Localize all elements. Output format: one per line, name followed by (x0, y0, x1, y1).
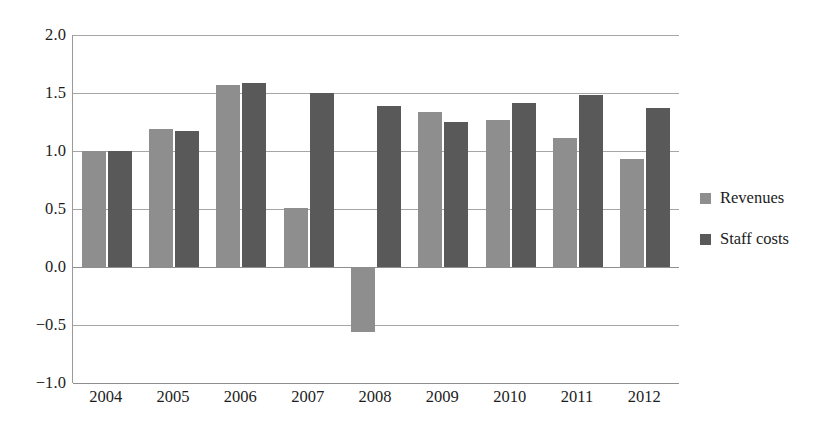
y-axis-tick-label: 0.5 (4, 201, 66, 218)
x-axis-tick-label: 2004 (72, 389, 140, 406)
x-axis-tick-label: 2012 (610, 389, 678, 406)
bars-layer (73, 35, 679, 383)
chart-legend: Revenues Staff costs (700, 178, 830, 260)
bar-revenues-2005 (149, 129, 173, 267)
legend-item-staff-costs: Staff costs (700, 219, 830, 260)
x-axis-tick-label: 2011 (543, 389, 611, 406)
gridline (73, 383, 679, 384)
x-axis-tick-label: 2007 (274, 389, 342, 406)
bar-staff-costs-2007 (310, 93, 334, 267)
plot-area (72, 35, 678, 383)
legend-swatch-icon-staff-costs (700, 234, 711, 245)
bar-revenues-2007 (284, 208, 308, 267)
x-axis-tick-label: 2005 (139, 389, 207, 406)
y-axis-tick-label: −1.0 (4, 375, 66, 392)
legend-swatch-icon-revenues (700, 193, 711, 204)
y-axis-tick-label: −0.5 (4, 317, 66, 334)
legend-item-revenues: Revenues (700, 178, 830, 219)
bar-revenues-2006 (216, 85, 240, 267)
x-axis-tick-label: 2009 (408, 389, 476, 406)
bar-revenues-2009 (418, 112, 442, 267)
legend-label-staff-costs: Staff costs (720, 231, 789, 248)
bar-revenues-2004 (82, 151, 106, 267)
bar-revenues-2008 (351, 267, 375, 332)
x-axis-tick-label: 2010 (476, 389, 544, 406)
bar-staff-costs-2010 (512, 103, 536, 267)
bar-revenues-2011 (553, 138, 577, 267)
bar-staff-costs-2008 (377, 106, 401, 267)
bar-staff-costs-2009 (444, 122, 468, 267)
bar-staff-costs-2011 (579, 95, 603, 267)
y-axis-tick-label: 1.5 (4, 85, 66, 102)
bar-chart: 2.01.51.00.50.0−0.5−1.0 2004200520062007… (0, 0, 833, 426)
bar-staff-costs-2004 (108, 151, 132, 267)
y-axis-tick-label: 0.0 (4, 259, 66, 276)
bar-revenues-2012 (620, 159, 644, 267)
legend-label-revenues: Revenues (720, 190, 784, 207)
y-axis-tick-label: 2.0 (4, 27, 66, 44)
x-axis-tick-label: 2008 (341, 389, 409, 406)
y-axis-tick-labels: 2.01.51.00.50.0−0.5−1.0 (0, 0, 66, 426)
y-axis-tick-label: 1.0 (4, 143, 66, 160)
bar-staff-costs-2012 (646, 108, 670, 267)
bar-staff-costs-2006 (242, 83, 266, 267)
bar-staff-costs-2005 (175, 131, 199, 267)
bar-revenues-2010 (486, 120, 510, 267)
x-axis-tick-label: 2006 (206, 389, 274, 406)
